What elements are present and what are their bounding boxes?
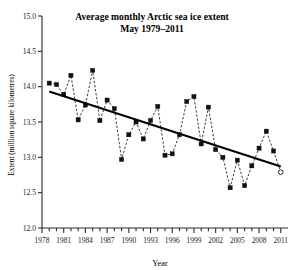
data-point <box>264 129 268 133</box>
y-tick-label: 14.5 <box>23 47 36 56</box>
y-tick-label: 14.0 <box>23 82 36 91</box>
data-point-open <box>278 170 283 175</box>
chart-background <box>0 0 304 270</box>
chart-figure: Average monthly Arctic sea ice extent Ma… <box>0 0 304 270</box>
x-tick-label: 1978 <box>35 236 50 245</box>
y-tick-label: 12.0 <box>23 224 36 233</box>
data-point <box>148 118 152 122</box>
x-tick-label: 1981 <box>56 236 71 245</box>
y-tick-label: 15.0 <box>23 12 36 21</box>
x-tick-label: 1984 <box>78 236 93 245</box>
x-axis-label: Year <box>152 259 168 268</box>
data-point <box>69 73 73 77</box>
chart-title: Average monthly Arctic sea ice extent <box>75 11 229 22</box>
data-point <box>257 146 261 150</box>
arctic-sea-ice-extent-chart: Average monthly Arctic sea ice extent Ma… <box>0 0 304 270</box>
data-point <box>105 98 109 102</box>
y-tick-label: 13.5 <box>23 118 36 127</box>
data-point <box>206 105 210 109</box>
y-axis-label: Extent (million square kilometres) <box>7 74 16 176</box>
x-tick-label: 1996 <box>165 236 180 245</box>
data-point <box>250 164 254 168</box>
data-point <box>170 152 174 156</box>
x-tick-label: 2002 <box>208 236 223 245</box>
data-point <box>119 157 123 161</box>
x-tick-label: 1993 <box>143 236 158 245</box>
chart-subtitle: May 1979–2011 <box>120 23 184 34</box>
data-point <box>127 133 131 137</box>
x-tick-label: 2011 <box>274 236 289 245</box>
data-point <box>54 82 58 86</box>
data-point <box>185 99 189 103</box>
x-tick-label: 1990 <box>121 236 136 245</box>
data-point <box>112 106 116 110</box>
data-point <box>98 118 102 122</box>
data-point <box>235 158 239 162</box>
y-tick-label: 12.5 <box>23 188 36 197</box>
data-point <box>271 149 275 153</box>
x-tick-label: 1987 <box>100 236 115 245</box>
data-point <box>47 81 51 85</box>
data-point <box>91 68 95 72</box>
data-point <box>242 184 246 188</box>
y-tick-label: 13.0 <box>23 153 36 162</box>
data-point <box>141 137 145 141</box>
data-point <box>214 147 218 151</box>
data-point <box>221 155 225 159</box>
x-tick-label: 2008 <box>252 236 267 245</box>
data-point <box>192 94 196 98</box>
data-point <box>228 186 232 190</box>
x-tick-label: 1999 <box>187 236 202 245</box>
data-point <box>76 118 80 122</box>
x-tick-label: 2005 <box>230 236 245 245</box>
data-point <box>163 153 167 157</box>
data-point <box>156 104 160 108</box>
data-point <box>199 142 203 146</box>
